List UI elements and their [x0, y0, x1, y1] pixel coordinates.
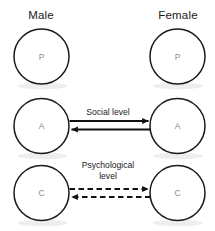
ego-letter-male-child: C	[32, 188, 52, 198]
column-header-female: Female	[137, 9, 215, 21]
ego-letter-female-adult: A	[168, 121, 188, 131]
ego-letter-male-adult: A	[32, 121, 52, 131]
link-label-psychological-level: Psychological level	[62, 160, 154, 181]
ego-letter-female-parent: P	[168, 52, 188, 62]
column-header-male: Male	[0, 9, 82, 21]
link-label-social-level: Social level	[62, 107, 154, 118]
ego-letter-male-parent: P	[32, 52, 52, 62]
diagram-canvas: Male Female P P A A C C Social level Psy…	[0, 0, 215, 231]
ego-letter-female-child: C	[168, 188, 188, 198]
